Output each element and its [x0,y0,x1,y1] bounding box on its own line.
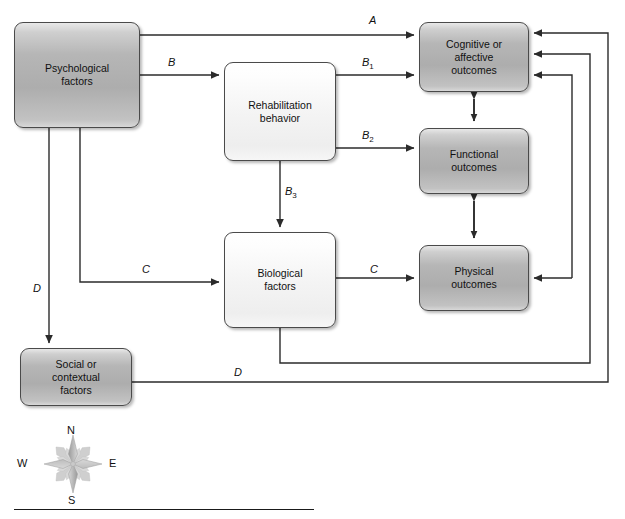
node-biological-factors-label: Biological factors [258,267,303,293]
node-physical-outcomes-label: Physical outcomes [451,265,497,291]
compass-label-east-text: E [109,457,116,469]
edge-label-D-right: D [234,366,242,378]
edge-label-B-text: B [168,56,175,68]
edge-C-left-path [80,128,219,282]
node-cognitive-affective-outcomes[interactable]: Cognitive or affective outcomes [419,22,529,92]
edge-physical-feedback-path [534,75,572,278]
node-social-contextual-factors-label: Social or contextual factors [52,358,100,397]
node-physical-outcomes[interactable]: Physical outcomes [419,245,529,311]
edge-label-B3: B3 [285,185,297,200]
compass-label-east: E [109,457,116,469]
edge-label-B2: B2 [362,129,374,144]
edge-label-C-left-text: C [142,263,150,275]
compass-label-west: W [17,457,27,469]
edge-label-B: B [168,56,175,68]
edge-label-D-down-text: D [33,282,41,294]
node-psychological-factors[interactable]: Psychological factors [14,22,140,128]
node-biological-factors[interactable]: Biological factors [224,232,336,328]
edge-label-D-right-text: D [234,366,242,378]
edge-D-right-path [132,33,608,382]
node-functional-outcomes-label: Functional outcomes [450,148,498,174]
edge-label-D-down: D [33,282,41,294]
edge-label-B3-subscript: 3 [292,191,296,200]
node-cognitive-affective-outcomes-label: Cognitive or affective outcomes [446,38,502,77]
compass-label-west-text: W [17,457,27,469]
edge-label-C-right-text: C [370,263,378,275]
node-rehabilitation-behavior-label: Rehabilitation behavior [248,99,312,125]
node-social-contextual-factors[interactable]: Social or contextual factors [20,348,132,406]
edge-label-A-text: A [369,14,376,26]
node-functional-outcomes[interactable]: Functional outcomes [419,128,529,194]
compass-rose-icon [42,433,104,495]
compass-label-north-text: N [67,424,75,436]
compass-label-north: N [67,424,75,436]
footer-divider-rule [14,509,314,510]
edge-label-C-right: C [370,263,378,275]
edge-label-B1: B1 [362,56,374,71]
edge-label-C-left: C [142,263,150,275]
diagram-canvas: Psychological factors Rehabilitation beh… [0,0,625,519]
edge-label-A: A [369,14,376,26]
compass-label-south: S [68,494,75,506]
node-rehabilitation-behavior[interactable]: Rehabilitation behavior [224,62,336,161]
edge-label-B1-subscript: 1 [369,62,373,71]
node-psychological-factors-label: Psychological factors [45,62,109,88]
compass-label-south-text: S [68,494,75,506]
edge-label-B2-subscript: 2 [369,135,373,144]
